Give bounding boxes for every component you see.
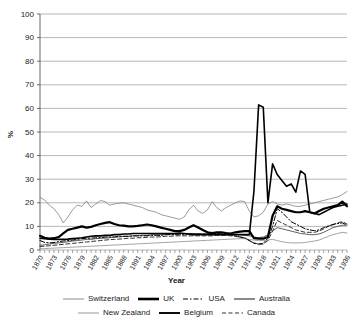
svg-text:1888: 1888 (114, 254, 128, 270)
svg-text:1894: 1894 (142, 254, 156, 270)
series-line-switzerland (40, 191, 347, 222)
x-axis-title: Year (0, 276, 353, 285)
line-chart-plot: 0102030405060708090100187018731876187918… (0, 0, 353, 270)
legend-item-belgium[interactable]: Belgium (159, 309, 213, 317)
svg-text:0: 0 (30, 246, 35, 255)
svg-text:1915: 1915 (240, 254, 254, 270)
svg-text:1906: 1906 (198, 254, 212, 270)
svg-text:90: 90 (25, 33, 34, 42)
svg-text:1930: 1930 (310, 254, 324, 270)
legend-label-switzerland: Switzerland (88, 295, 129, 303)
svg-text:1936: 1936 (338, 254, 352, 270)
svg-text:1918: 1918 (254, 254, 268, 270)
svg-text:1897: 1897 (156, 254, 170, 270)
svg-text:1909: 1909 (212, 254, 226, 270)
series-line-belgium (40, 105, 347, 240)
svg-text:60: 60 (25, 104, 34, 113)
svg-text:1873: 1873 (44, 254, 58, 270)
legend-label-new-zealand: New Zealand (103, 309, 150, 317)
svg-text:100: 100 (21, 10, 35, 19)
chart-legend: Switzerland UK USA Australia New Zealand (0, 292, 353, 320)
legend-label-belgium: Belgium (184, 309, 213, 317)
legend-key-australia-icon (234, 295, 255, 303)
legend-row-1: Switzerland UK USA Australia (0, 292, 353, 306)
legend-item-new-zealand[interactable]: New Zealand (78, 309, 150, 317)
svg-text:40: 40 (25, 151, 34, 160)
legend-row-2: New Zealand Belgium Canada (0, 306, 353, 320)
svg-text:30: 30 (25, 175, 34, 184)
svg-text:1900: 1900 (170, 254, 184, 270)
svg-text:1879: 1879 (72, 254, 86, 270)
legend-key-uk-icon (138, 295, 159, 303)
legend-key-canada-icon (222, 309, 243, 317)
svg-text:50: 50 (25, 128, 34, 137)
svg-text:80: 80 (25, 57, 34, 66)
svg-text:1876: 1876 (58, 254, 72, 270)
svg-text:70: 70 (25, 80, 34, 89)
svg-text:1933: 1933 (324, 254, 338, 270)
legend-key-belgium-icon (159, 309, 180, 317)
legend-item-usa[interactable]: USA (183, 295, 224, 303)
svg-text:1870: 1870 (31, 254, 45, 270)
chart-container: % 01020304050607080901001870187318761879… (0, 0, 353, 334)
svg-text:10: 10 (25, 222, 34, 231)
svg-text:1891: 1891 (128, 254, 142, 270)
legend-label-canada: Canada (247, 309, 275, 317)
legend-key-switzerland-icon (63, 295, 84, 303)
legend-key-usa-icon (183, 295, 204, 303)
y-axis-title: % (6, 131, 15, 138)
svg-text:1927: 1927 (296, 254, 310, 270)
legend-item-switzerland[interactable]: Switzerland (63, 295, 129, 303)
svg-text:1885: 1885 (100, 254, 114, 270)
legend-label-usa: USA (208, 295, 224, 303)
legend-item-canada[interactable]: Canada (222, 309, 275, 317)
legend-key-new-zealand-icon (78, 309, 99, 317)
svg-text:1924: 1924 (282, 254, 296, 270)
svg-text:1912: 1912 (226, 254, 240, 270)
svg-text:1921: 1921 (268, 254, 282, 270)
svg-text:1882: 1882 (86, 254, 100, 270)
legend-item-uk[interactable]: UK (138, 295, 174, 303)
legend-item-australia[interactable]: Australia (234, 295, 290, 303)
svg-text:1903: 1903 (184, 254, 198, 270)
svg-text:20: 20 (25, 198, 34, 207)
legend-label-australia: Australia (259, 295, 290, 303)
legend-label-uk: UK (163, 295, 174, 303)
